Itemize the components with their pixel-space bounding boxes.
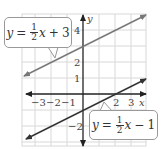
var-y: y: [92, 118, 99, 132]
constant: 3: [62, 26, 70, 40]
constant: 1: [147, 118, 155, 132]
fraction: 12: [116, 116, 124, 135]
equation-callout-upper: y = 12 x + 3: [4, 17, 72, 48]
y-tick-label: 1: [74, 73, 80, 84]
x-tick-label: 3: [128, 97, 134, 108]
x-tick-label: −1: [61, 97, 76, 108]
x-tick-label: −2: [46, 97, 61, 108]
x-tick-label: 2: [113, 97, 119, 108]
equals: =: [16, 26, 26, 40]
operator: +: [49, 26, 59, 40]
var-x: x: [39, 26, 46, 40]
x-tick-label: −3: [31, 97, 46, 108]
y-tick-label: 4: [74, 25, 80, 36]
x-axis-label: x: [139, 97, 145, 108]
var-y: y: [6, 26, 13, 40]
y-tick-label: 2: [74, 57, 80, 68]
equals: =: [102, 118, 112, 132]
equation-callout-lower: y = 12 x − 1: [89, 110, 158, 140]
operator: −: [134, 118, 144, 132]
var-x: x: [125, 118, 132, 132]
y-axis-label: y: [86, 13, 93, 24]
fraction: 12: [30, 23, 38, 42]
y-tick-label: −2: [68, 121, 83, 132]
callout-tail-upper: [48, 47, 58, 58]
